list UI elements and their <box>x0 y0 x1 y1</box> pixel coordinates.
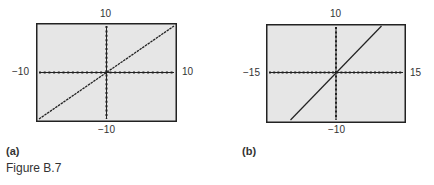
graph-b-ymax-label: 10 <box>330 8 341 19</box>
graph-b-plot <box>266 24 406 123</box>
graph-a-label: (a) <box>6 145 19 157</box>
graph-a-xmin-label: −10 <box>12 66 29 77</box>
graph-b-ymin-label: −10 <box>328 124 345 135</box>
graph-a-ymax-label: 10 <box>100 8 111 19</box>
graph-b-xmin-label: −15 <box>243 67 260 78</box>
graph-a-ymin-label: −10 <box>98 124 115 135</box>
graph-a-xmax-label: 10 <box>182 66 193 77</box>
graph-a-plot <box>36 23 177 122</box>
figure-caption: Figure B.7 <box>6 161 61 175</box>
graph-b-label: (b) <box>242 145 256 157</box>
graph-b-xmax-label: 15 <box>410 67 421 78</box>
